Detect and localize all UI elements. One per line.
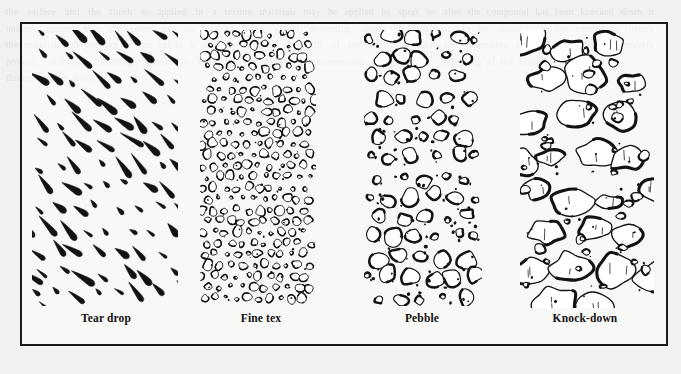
teardrop-mark [143,92,157,104]
panel-label-teardrop: Tear drop [26,312,186,324]
teardrop-mark [174,80,178,88]
finetex-speck [223,107,224,109]
knockdown-speck [586,37,588,39]
teardrop-mark [133,246,146,260]
finetex-speck [275,141,277,143]
pebble-speck [393,148,398,152]
pebble-speck [414,136,418,140]
pebble-speck [451,230,456,235]
teardrop-mark [58,164,66,171]
teardrop-mark [124,264,136,278]
teardrop-mark [145,70,164,86]
teardrop-mark [68,291,84,304]
finetex-speck [279,168,282,170]
teardrop-mark [34,114,49,132]
teardrop-mark [98,274,108,282]
finetex-grain [211,50,220,60]
teardrop-mark [115,31,128,48]
knockdown-splotch [594,31,623,56]
texture-panel-pebble: Pebble [342,24,502,344]
pebble-speck [457,208,460,211]
teardrop-mark [69,80,75,87]
teardrop-mark [74,206,89,217]
pebble-speck [427,116,432,120]
teardrop-mark [48,73,63,86]
knockdown-speck [615,247,617,249]
pebble-speck [415,126,419,130]
pebble-speck [455,188,458,191]
teardrop-mark [102,228,108,235]
knockdown-speck [589,256,591,258]
pebble-speck [442,198,445,202]
panel-label-pebble: Pebble [342,312,502,324]
pebble-speck [416,283,419,286]
teardrop-mark [127,31,141,45]
finetex-grain [256,205,265,216]
teardrop-mark [174,203,178,218]
teardrop-mark [172,123,179,131]
teardrop-mark [56,35,69,47]
pebble-speck [473,224,478,229]
finetex-speck [263,235,265,238]
pebble-speck [378,145,382,149]
teardrop-pattern-svg [32,30,178,306]
knockdown-speck [638,289,640,292]
pebble-speck [424,245,428,249]
finetex-speck [260,95,262,97]
teardrop-mark [130,229,138,234]
pebble-stone [411,51,428,67]
teardrop-mark [114,118,133,131]
teardrop-mark [66,52,73,59]
teardrop-mark [168,223,178,237]
pebble-speck [457,238,461,242]
pebble-speck [380,182,382,185]
teardrop-mark [91,200,97,208]
teardrop-mark [160,162,166,169]
teardrop-mark [97,140,115,152]
pebble-speck [376,44,380,48]
knockdown-splotch [632,260,654,292]
pebble-speck [393,131,395,132]
teardrop-mark [39,49,47,58]
texture-swatch-pebble [364,30,482,306]
finetex-speck [276,190,278,193]
teardrop-mark [143,183,158,193]
teardrop-mark [35,168,43,174]
pebble-pattern-svg [364,30,482,306]
pebble-speck [430,149,433,152]
teardrop-mark [62,182,82,195]
finetex-speck [237,66,239,68]
teardrop-mark [81,89,101,107]
teardrop-mark [32,220,35,238]
teardrop-mark [120,180,127,185]
texture-panel-finetex: Fine tex [186,24,336,344]
teardrop-mark [170,159,178,171]
texture-swatch-teardrop [32,30,178,306]
knockdown-speck [541,91,543,93]
pebble-speck [394,103,398,107]
pebble-speck [372,42,376,46]
teardrop-mark [156,202,166,209]
teardrop-mark [140,52,154,62]
knockdown-speck [618,143,620,145]
knockdown-pattern-svg [520,30,654,308]
teardrop-mark [159,252,167,258]
knockdown-splotch [575,292,614,308]
pebble-speck [406,292,411,297]
pebble-speck [450,105,454,110]
teardrop-mark [54,240,66,256]
finetex-speck [250,257,251,258]
pebble-speck [469,182,471,185]
teardrop-mark [114,289,123,295]
teardrop-mark [73,52,92,69]
pebble-speck [453,221,457,225]
teardrop-mark [103,181,109,188]
pebble-speck [400,205,403,207]
teardrop-mark [39,175,53,194]
teardrop-mark [93,245,106,257]
teardrop-mark [99,52,110,60]
teardrop-mark [84,231,93,238]
finetex-speck [233,123,235,125]
teardrop-mark [88,30,105,45]
knockdown-speck [547,134,549,136]
